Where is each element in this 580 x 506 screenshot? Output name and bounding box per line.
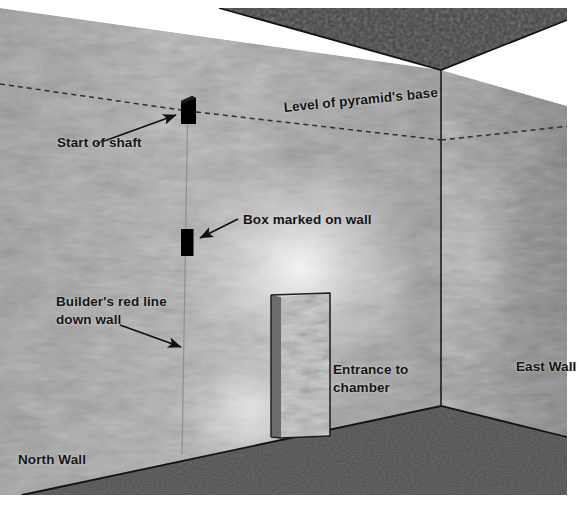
bottom-margin (0, 495, 580, 506)
label-box-marked-on-wall: Box marked on wall (243, 212, 372, 228)
right-margin (567, 0, 580, 506)
top-margin (0, 0, 580, 8)
pyramid-chamber-illustration: Level of pyramid's base Start of shaft B… (0, 0, 580, 506)
label-start-of-shaft: Start of shaft (57, 135, 142, 151)
label-entrance-to-chamber-line2: chamber (333, 380, 390, 396)
label-north-wall: North Wall (18, 452, 86, 468)
scene-geometry (0, 0, 580, 506)
label-east-wall: East Wall (516, 359, 576, 375)
chamber-doorway (271, 293, 330, 438)
marked-box (181, 229, 194, 256)
label-builders-red-line-line2: down wall (56, 312, 121, 328)
label-builders-red-line-line1: Builder's red line (56, 294, 167, 310)
label-entrance-to-chamber-line1: Entrance to (333, 362, 408, 378)
shaft-opening-box (181, 96, 196, 124)
